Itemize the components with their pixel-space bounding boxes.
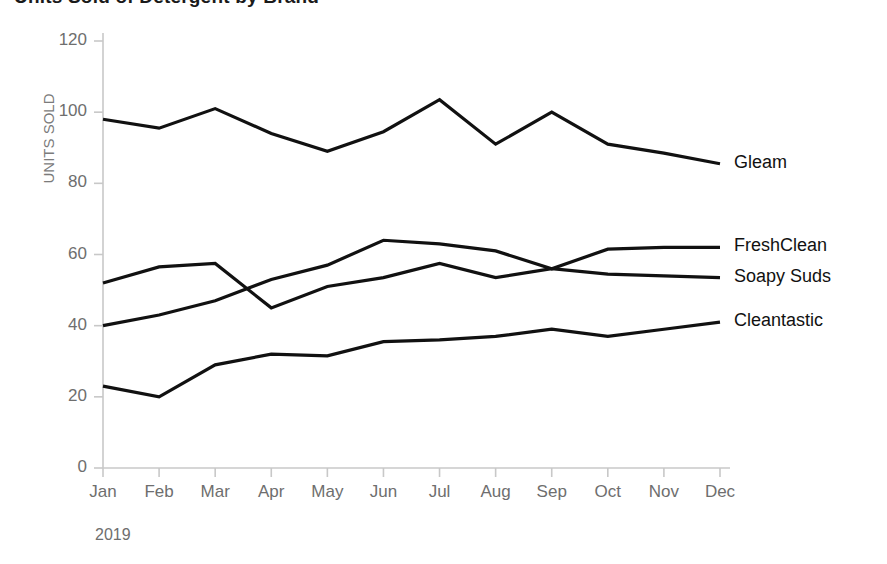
- y-tick-label: 100: [41, 101, 87, 121]
- x-tick-label-may: May: [299, 482, 355, 502]
- y-tick-label: 80: [41, 172, 87, 192]
- series-line-freshclean: [103, 240, 720, 325]
- x-axis-title: 2019: [95, 526, 131, 544]
- x-tick-label-apr: Apr: [243, 482, 299, 502]
- series-line-soapy-suds: [103, 263, 720, 307]
- y-tick-label: 20: [41, 386, 87, 406]
- series-label-gleam: Gleam: [734, 152, 787, 173]
- x-tick-label-jul: Jul: [412, 482, 468, 502]
- x-tick-label-feb: Feb: [131, 482, 187, 502]
- series-line-cleantastic: [103, 322, 720, 397]
- y-tick-label: 40: [41, 315, 87, 335]
- x-tick-label-aug: Aug: [468, 482, 524, 502]
- series-line-gleam: [103, 100, 720, 164]
- x-tick-label-oct: Oct: [580, 482, 636, 502]
- x-tick-label-nov: Nov: [636, 482, 692, 502]
- y-tick-label: 60: [41, 244, 87, 264]
- x-tick-label-mar: Mar: [187, 482, 243, 502]
- x-tick-label-dec: Dec: [692, 482, 748, 502]
- y-tick-label: 120: [41, 30, 87, 50]
- x-tick-label-jan: Jan: [75, 482, 131, 502]
- line-chart: Units Sold of Detergent by Brand UNITS S…: [0, 0, 887, 564]
- x-tick-label-jun: Jun: [355, 482, 411, 502]
- series-label-cleantastic: Cleantastic: [734, 310, 823, 331]
- series-label-freshclean: FreshClean: [734, 235, 827, 256]
- y-tick-label: 0: [41, 457, 87, 477]
- series-label-soapy-suds: Soapy Suds: [734, 266, 831, 287]
- x-tick-label-sep: Sep: [524, 482, 580, 502]
